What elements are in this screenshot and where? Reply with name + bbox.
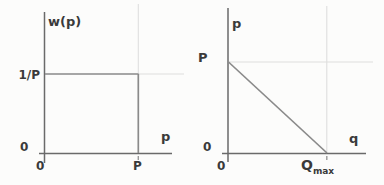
two-panel-economics-figure: w(p) 1/P 0 0 p P p P 0 0 q Qmax (0, 0, 384, 185)
left-x-tick-label: P (133, 160, 142, 172)
right-x-tick-label-sub: max (313, 166, 334, 176)
left-y-tick-label: 1/P (12, 69, 40, 81)
right-x-tick-label: Qmax (301, 158, 334, 176)
right-origin-label-x: 0 (217, 160, 225, 172)
left-y-axis-title: w(p) (48, 15, 81, 28)
right-x-axis-title: q (349, 132, 358, 145)
right-origin-label-y: 0 (203, 141, 211, 153)
right-demand-line (229, 62, 328, 153)
left-origin-label-y: 0 (20, 141, 28, 153)
right-x-tick-label-base: Q (301, 157, 313, 173)
left-x-axis-title: p (161, 130, 170, 143)
right-y-tick-label: P (198, 51, 208, 64)
right-y-axis-title: p (232, 17, 241, 30)
left-origin-label-x: 0 (36, 160, 44, 172)
